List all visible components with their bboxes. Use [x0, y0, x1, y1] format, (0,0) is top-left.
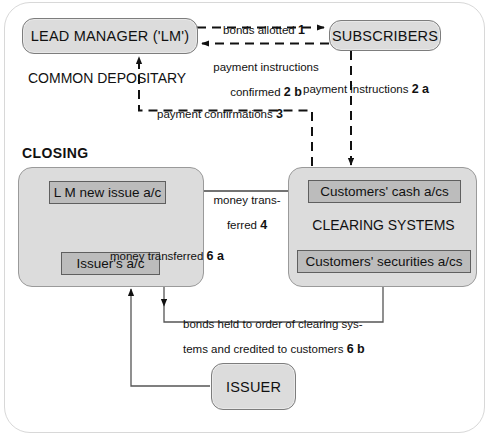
group-closing[interactable]: L M new issue a/c Issuer's a/c	[18, 167, 204, 287]
label-common-depositary: COMMON DEPOSITARY	[28, 69, 218, 87]
annotation-bonds-held-6b: bonds held to order of clearing sys- tem…	[183, 305, 413, 355]
node-lm-new-issue-ac-label: L M new issue a/c	[54, 185, 162, 200]
node-customers-securities-acs[interactable]: Customers' securities a/cs	[297, 250, 471, 273]
annotation-money-transferred-4: money trans- ferred 4	[206, 181, 288, 231]
annotation-bonds-allotted-1-step: 1	[298, 23, 305, 37]
label-closing-text: CLOSING	[22, 145, 89, 161]
group-clearing-systems[interactable]: Customers' cash a/cs CLEARING SYSTEMS Cu…	[288, 167, 477, 287]
label-clearing-systems: CLEARING SYSTEMS	[289, 216, 478, 234]
label-clearing-systems-text: CLEARING SYSTEMS	[312, 217, 454, 233]
annotation-money-transferred-4-step: 4	[260, 218, 267, 232]
annotation-payment-instructions-2a: payment instructions 2 a	[303, 70, 483, 95]
annotation-payment-instructions-2a-step: 2 a	[412, 82, 429, 96]
label-closing: CLOSING	[22, 144, 142, 162]
annotation-payment-confirmations-3-step: 3	[276, 107, 283, 121]
annotation-money-transferred-6a-text: money transferred	[110, 250, 207, 262]
annotation-payment-confirmations-3: payment confirmations 3	[157, 95, 347, 120]
node-subscribers[interactable]: SUBSCRIBERS	[329, 20, 441, 51]
annotation-payment-confirmations-3-text: payment confirmations	[157, 108, 276, 120]
annotation-money-transferred-4-line1: money trans-	[213, 194, 280, 206]
diagram-canvas: LEAD MANAGER ('LM') SUBSCRIBERS COMMON D…	[0, 0, 491, 437]
node-issuer[interactable]: ISSUER	[211, 363, 296, 410]
annotation-bonds-allotted-1: bonds allotted 1	[205, 11, 323, 36]
annotation-bonds-held-6b-step: 6 b	[347, 342, 365, 356]
node-lead-manager[interactable]: LEAD MANAGER ('LM')	[22, 18, 198, 54]
annotation-bonds-allotted-1-text: bonds allotted	[223, 24, 298, 36]
annotation-bonds-held-6b-line1: bonds held to order of clearing sys-	[183, 318, 363, 330]
node-lm-new-issue-ac[interactable]: L M new issue a/c	[49, 181, 166, 204]
node-lead-manager-label: LEAD MANAGER ('LM')	[31, 28, 189, 44]
node-customers-cash-acs-label: Customers' cash a/cs	[320, 184, 449, 199]
label-common-depositary-text: COMMON DEPOSITARY	[28, 70, 186, 86]
node-customers-cash-acs[interactable]: Customers' cash a/cs	[308, 180, 461, 203]
annotation-money-transferred-6a-step: 6 a	[207, 249, 224, 263]
annotation-payment-instructions-2a-text: payment instructions	[303, 83, 412, 95]
annotation-money-transferred-4-line2: ferred	[227, 219, 260, 231]
node-subscribers-label: SUBSCRIBERS	[332, 28, 438, 44]
annotation-money-transferred-6a: money transferred 6 a	[110, 237, 270, 262]
node-issuer-label: ISSUER	[226, 379, 281, 395]
annotation-bonds-held-6b-line2: tems and credited to customers	[183, 343, 347, 355]
node-customers-securities-acs-label: Customers' securities a/cs	[305, 254, 462, 269]
